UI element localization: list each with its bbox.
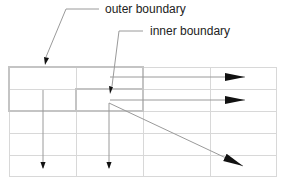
diagram-canvas [0, 0, 281, 184]
arrow-diagonal [109, 103, 243, 166]
outer-leader-arrowhead [44, 57, 49, 65]
inner-leader [112, 31, 143, 86]
outer-leader [46, 9, 99, 57]
inner-boundary-label: inner boundary [150, 24, 230, 38]
outer-boundary-label: outer boundary [105, 2, 186, 16]
boundary-diagram: outer boundary inner boundary [0, 0, 281, 184]
leader-lines [46, 9, 143, 86]
